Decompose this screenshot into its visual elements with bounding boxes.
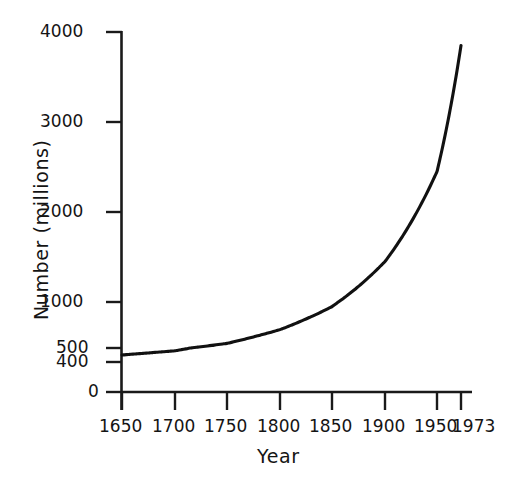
y-tick-label-0: 0 [88, 383, 99, 400]
y-axis-title: Number (millions) [32, 139, 51, 320]
x-tick-label-1800: 1800 [257, 418, 300, 435]
x-tick-label-1750: 1750 [204, 418, 247, 435]
population-curve [122, 46, 461, 356]
x-tick-label-1650: 1650 [99, 418, 142, 435]
y-tick-label-4000: 4000 [40, 23, 83, 40]
y-tick-label-3000: 3000 [40, 113, 83, 130]
x-tick-label-1900: 1900 [362, 418, 405, 435]
x-tick-label-1700: 1700 [152, 418, 195, 435]
x-tick-label-1850: 1850 [309, 418, 352, 435]
x-axis-ticks [122, 392, 461, 410]
x-axis-title: Year [257, 447, 300, 466]
x-tick-label-1950: 1950 [414, 418, 457, 435]
x-tick-label-1973: 1973 [452, 418, 495, 435]
y-axis-ticks [106, 32, 122, 392]
y-tick-label-400: 400 [56, 353, 88, 370]
population-growth-chart: 4000 3000 2000 1000 500 400 0 1650 1700 … [0, 0, 526, 490]
